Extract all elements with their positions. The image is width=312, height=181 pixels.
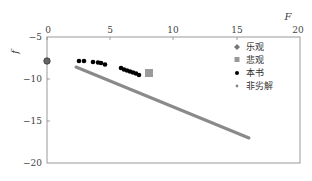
diamond-icon	[234, 44, 240, 50]
scatter-chart: 0 5 10 15 20 F −5 −10 −15 −20 f	[0, 0, 312, 181]
series-benshu	[77, 59, 142, 78]
y-axis-title: f	[9, 48, 20, 55]
square-icon	[235, 57, 240, 62]
legend-item-pareto: 非劣解	[236, 80, 273, 91]
x-tick-label: 15	[231, 25, 243, 35]
data-point	[103, 62, 108, 67]
legend-item-optimistic: 乐观	[234, 41, 264, 52]
legend-item-this-book: 本书	[235, 67, 264, 78]
y-tick-label: −20	[23, 158, 42, 168]
dot-icon	[236, 85, 239, 88]
legend-label: 悲观	[246, 54, 264, 65]
legend-label: 本书	[246, 67, 264, 78]
legend-label: 非劣解	[246, 80, 273, 91]
x-tick-label: 20	[292, 25, 304, 35]
data-point	[137, 73, 142, 78]
x-axis: 0 5 10 15 20 F	[45, 11, 304, 40]
y-tick-label: −15	[23, 116, 42, 126]
y-axis: −5 −10 −15 −20 f	[9, 32, 50, 168]
data-point	[82, 59, 87, 64]
circle-icon	[235, 71, 239, 75]
y-tick-label: −10	[23, 74, 42, 84]
x-tick-label: 10	[167, 25, 179, 35]
legend-label: 乐观	[246, 41, 264, 52]
data-point	[77, 59, 82, 64]
x-axis-title: F	[284, 11, 293, 22]
pessimistic-point	[145, 69, 153, 77]
legend: 乐观 悲观 本书 非劣解	[234, 41, 273, 91]
data-point	[99, 61, 104, 66]
y-tick-label: −5	[29, 32, 43, 42]
optimistic-point	[44, 58, 50, 64]
legend-item-pessimistic: 悲观	[235, 54, 265, 65]
pareto-front-line	[76, 67, 249, 138]
data-point	[91, 60, 96, 65]
x-tick-label: 5	[107, 25, 113, 35]
x-tick-label: 0	[45, 25, 51, 35]
